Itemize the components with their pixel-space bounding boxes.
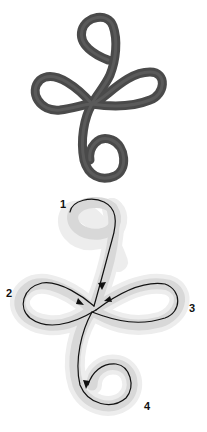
step-label-4: 4 bbox=[144, 400, 150, 412]
step-label-1: 1 bbox=[60, 198, 66, 210]
step-label-3: 3 bbox=[189, 302, 195, 314]
knot-diagram bbox=[0, 0, 207, 432]
finished-knot bbox=[35, 17, 162, 178]
path-guide bbox=[20, 199, 180, 406]
step-label-2: 2 bbox=[6, 287, 12, 299]
